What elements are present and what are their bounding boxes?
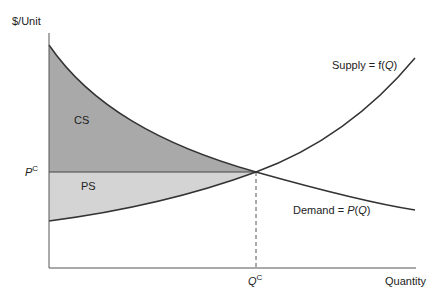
x-axis-label: Quantity bbox=[385, 275, 426, 287]
consumer-surplus-region bbox=[49, 45, 256, 172]
surplus-diagram bbox=[0, 0, 441, 300]
price-label: PC bbox=[25, 164, 38, 178]
ps-label: PS bbox=[81, 180, 96, 192]
demand-label: Demand = P(Q) bbox=[293, 204, 370, 216]
cs-label: CS bbox=[74, 114, 89, 126]
supply-label: Supply = f(Q) bbox=[332, 59, 397, 71]
y-axis-label: $/Unit bbox=[12, 15, 41, 27]
quantity-label: QC bbox=[248, 273, 262, 287]
